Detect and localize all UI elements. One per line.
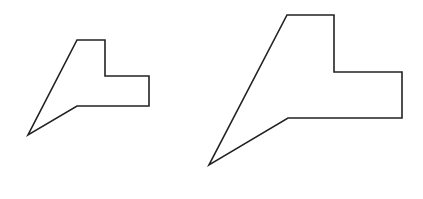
diagram-canvas [0,0,423,199]
large-polygon [209,15,402,165]
small-polygon [28,40,149,135]
